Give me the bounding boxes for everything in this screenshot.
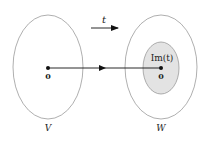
zero-point-v: [46, 66, 50, 70]
zero-label-v: 0: [45, 71, 51, 81]
zero-label-w: 0: [158, 71, 164, 81]
codomain-label: W: [156, 123, 166, 133]
mid-arrowhead-icon: [99, 65, 106, 71]
map-label: t: [102, 14, 107, 25]
zero-point-w: [159, 66, 163, 70]
linear-map-diagram: t 0 0 Im(t) V W: [0, 0, 202, 141]
domain-label: V: [45, 123, 53, 133]
image-label: Im(t): [151, 53, 174, 63]
